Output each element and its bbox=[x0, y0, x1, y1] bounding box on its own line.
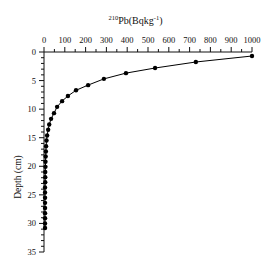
data-point-marker bbox=[52, 111, 56, 115]
y-tick-label: 35 bbox=[28, 247, 37, 257]
data-point-marker bbox=[43, 170, 47, 174]
data-point-marker bbox=[153, 66, 157, 70]
x-tick-label: 1000 bbox=[244, 35, 261, 45]
x-tick-label: 800 bbox=[204, 35, 217, 45]
data-point-marker bbox=[43, 201, 47, 205]
x-tick-label: 900 bbox=[225, 35, 238, 45]
data-point-marker bbox=[124, 71, 128, 75]
data-line bbox=[45, 56, 252, 228]
data-point-marker bbox=[47, 122, 51, 126]
x-tick-label: 100 bbox=[58, 35, 71, 45]
x-tick-label: 0 bbox=[42, 35, 46, 45]
y-tick-label: 0 bbox=[32, 47, 36, 57]
data-point-marker bbox=[43, 185, 47, 189]
data-point-marker bbox=[44, 144, 48, 148]
data-point-marker bbox=[60, 99, 64, 103]
depth-profile-chart: 0100200300400500600700800900100005101520… bbox=[0, 0, 271, 271]
data-point-marker bbox=[55, 105, 59, 109]
data-point-marker bbox=[43, 154, 47, 158]
x-tick-label: 600 bbox=[162, 35, 175, 45]
y-tick-label: 10 bbox=[28, 104, 37, 114]
data-point-marker bbox=[44, 138, 48, 142]
x-tick-label: 300 bbox=[100, 35, 113, 45]
data-point-marker bbox=[43, 221, 47, 225]
data-point-marker bbox=[43, 196, 47, 200]
data-point-marker bbox=[43, 165, 47, 169]
data-point-marker bbox=[250, 54, 254, 58]
data-point-marker bbox=[45, 133, 49, 137]
data-point-marker bbox=[49, 117, 53, 121]
data-point-marker bbox=[74, 88, 78, 92]
x-tick-label: 700 bbox=[183, 35, 196, 45]
data-point-marker bbox=[86, 83, 90, 87]
data-point-marker bbox=[43, 216, 47, 220]
y-tick-label: 25 bbox=[28, 190, 37, 200]
data-point-marker bbox=[43, 175, 47, 179]
data-point-marker bbox=[194, 60, 198, 64]
y-tick-label: 30 bbox=[28, 218, 37, 228]
data-point-marker bbox=[44, 149, 48, 153]
x-tick-label: 400 bbox=[121, 35, 134, 45]
x-tick-label: 200 bbox=[79, 35, 92, 45]
x-tick-label: 500 bbox=[142, 35, 155, 45]
data-point-marker bbox=[43, 190, 47, 194]
data-markers bbox=[43, 54, 254, 230]
data-point-marker bbox=[43, 206, 47, 210]
data-point-marker bbox=[102, 77, 106, 81]
data-point-marker bbox=[43, 211, 47, 215]
data-point-marker bbox=[43, 226, 47, 230]
data-point-marker bbox=[43, 180, 47, 184]
axes: 0100200300400500600700800900100005101520… bbox=[28, 35, 261, 257]
data-point-marker bbox=[43, 160, 47, 164]
data-point-marker bbox=[66, 94, 70, 98]
y-tick-label: 5 bbox=[32, 76, 36, 86]
profile-line bbox=[45, 56, 252, 228]
y-tick-label: 15 bbox=[28, 133, 37, 143]
data-point-marker bbox=[46, 128, 50, 132]
y-tick-label: 20 bbox=[28, 161, 37, 171]
